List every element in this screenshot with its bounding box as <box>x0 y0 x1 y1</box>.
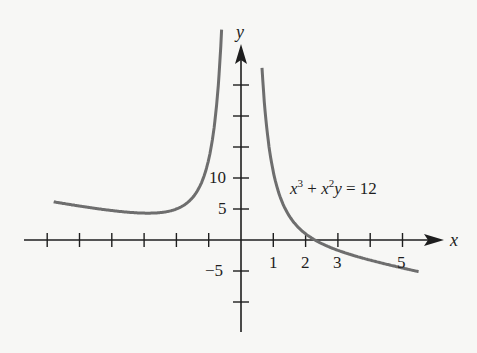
x-tick-label-5: 5 <box>397 253 406 272</box>
x-tick-label-3: 3 <box>333 253 342 272</box>
chart-canvas: x y 1 2 3 5 10 5 −5 x3 + x2y = 12 <box>0 0 477 353</box>
equation-label: x3 + x2y = 12 <box>289 177 377 198</box>
x-tick-label-1: 1 <box>269 253 278 272</box>
axes <box>24 44 444 332</box>
y-tick-label-10: 10 <box>209 168 226 187</box>
x-axis-label: x <box>449 230 458 250</box>
curve-left-branch <box>54 30 222 214</box>
chart-root: x y 1 2 3 5 10 5 −5 x3 + x2y = 12 <box>0 0 477 353</box>
x-tick-label-2: 2 <box>301 253 310 272</box>
curve-right-branch <box>262 68 419 272</box>
y-tick-label-5: 5 <box>218 199 227 218</box>
y-tick-label-neg5: −5 <box>205 261 223 280</box>
y-axis-label: y <box>234 22 244 42</box>
